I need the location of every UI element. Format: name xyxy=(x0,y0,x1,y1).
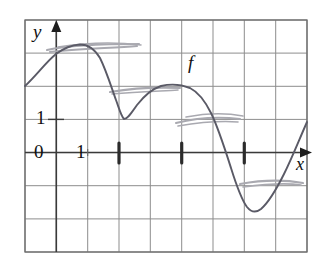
function-label: f xyxy=(188,53,193,72)
function-curve-f xyxy=(25,45,307,212)
x-axis-label: x xyxy=(296,155,304,173)
x-tick-label-one: 1 xyxy=(76,142,86,161)
tangent-marks xyxy=(47,43,303,187)
y-axis-arrow-icon xyxy=(51,20,61,32)
plot-border xyxy=(25,20,307,252)
plot-canvas xyxy=(0,0,322,267)
x-axis xyxy=(25,148,312,158)
y-tick-label-one: 1 xyxy=(36,108,46,127)
origin-label: 0 xyxy=(34,142,44,161)
y-axis-label: y xyxy=(33,22,41,41)
grid-lines xyxy=(25,20,307,252)
function-graph-figure: y x f 1 0 1 xyxy=(0,0,322,267)
